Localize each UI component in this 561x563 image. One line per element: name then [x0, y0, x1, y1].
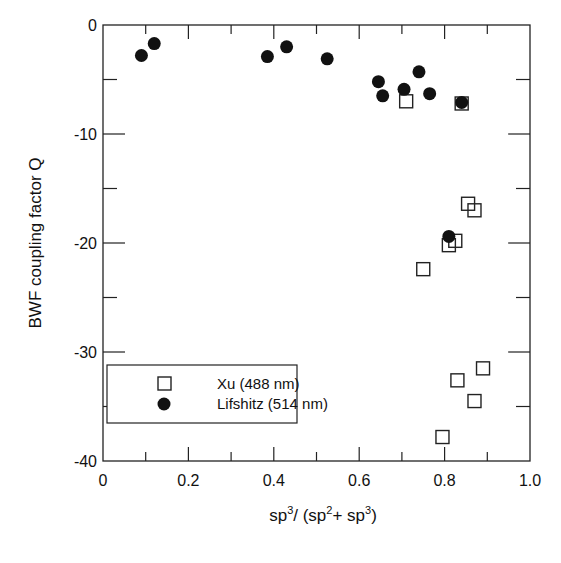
legend: Xu (488 nm) Lifshitz (514 nm) [107, 365, 328, 423]
lifshitz-point [412, 65, 425, 78]
xu-point [477, 362, 490, 375]
lifshitz-point [372, 75, 385, 88]
xu-point [436, 431, 449, 444]
y-tick-label: 0 [88, 17, 97, 34]
xu-point [400, 95, 413, 108]
x-tick-label: 0 [99, 472, 108, 489]
lifshitz-point [280, 40, 293, 53]
lifshitz-point [148, 37, 161, 50]
y-tick-label: -10 [74, 126, 97, 143]
x-tick-label: 0.4 [263, 472, 285, 489]
lifshitz-point [376, 89, 389, 102]
legend-circle-icon [158, 398, 171, 411]
lifshitz-point [135, 49, 148, 62]
lifshitz-point [423, 87, 436, 100]
lifshitz-point [261, 50, 274, 63]
x-tick-label: 0.8 [433, 472, 455, 489]
lifshitz-point [398, 83, 411, 96]
y-tick-label: -30 [74, 344, 97, 361]
lifshitz-point [455, 96, 468, 109]
x-tick-label: 0.2 [177, 472, 199, 489]
y-axis-label: BWF coupling factor Q [26, 157, 45, 328]
y-tick-label: -20 [74, 235, 97, 252]
x-tick-label: 0.6 [348, 472, 370, 489]
lifshitz-point [321, 52, 334, 65]
legend-label-lifshitz: Lifshitz (514 nm) [217, 395, 328, 412]
legend-label-xu: Xu (488 nm) [217, 375, 300, 392]
scatter-chart: 00.20.40.60.81.00-10-20-30-40 Xu (488 nm… [0, 0, 561, 563]
y-tick-label: -40 [74, 453, 97, 470]
lifshitz-point [442, 230, 455, 243]
x-axis-label: sp3/ (sp2+ sp3) [269, 504, 377, 525]
xu-point [468, 395, 481, 408]
x-tick-label: 1.0 [519, 472, 541, 489]
xu-point [451, 374, 464, 387]
xu-point [417, 263, 430, 276]
